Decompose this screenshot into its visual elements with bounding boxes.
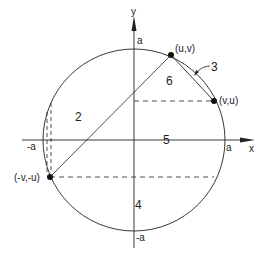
tick-label-pos-x: a bbox=[226, 142, 232, 153]
y-axis-arrow-icon bbox=[132, 16, 137, 31]
circle-diagram: y x a -a a -a (u,v) (v,u) (-v,-u) 2 3 4 … bbox=[0, 0, 271, 262]
region-label-4: 4 bbox=[135, 198, 142, 212]
tick-label-neg-y: -a bbox=[136, 232, 145, 243]
chord-p1-p2 bbox=[171, 55, 214, 101]
region-label-5: 5 bbox=[163, 133, 170, 147]
region-label-6: 6 bbox=[166, 74, 173, 88]
point-label-v-u: (v,u) bbox=[219, 95, 238, 106]
tick-label-pos-y: a bbox=[137, 35, 143, 46]
region-label-3: 3 bbox=[211, 60, 218, 74]
point-neg-v-neg-u bbox=[47, 174, 53, 180]
y-axis-label: y bbox=[131, 6, 136, 17]
point-u-v bbox=[168, 52, 174, 58]
region-label-2: 2 bbox=[75, 110, 82, 124]
tick-label-neg-x: -a bbox=[27, 141, 36, 152]
point-label-u-v: (u,v) bbox=[175, 43, 195, 54]
point-v-u bbox=[211, 98, 217, 104]
x-axis-label: x bbox=[249, 143, 254, 154]
point-label-neg-v-neg-u: (-v,-u) bbox=[14, 172, 40, 183]
line-p3-p1 bbox=[50, 55, 171, 177]
x-axis-arrow-icon bbox=[240, 138, 255, 143]
